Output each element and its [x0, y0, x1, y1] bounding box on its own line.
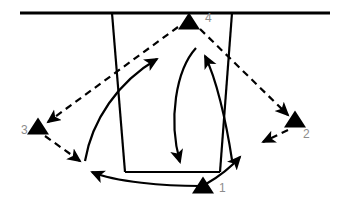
dashed-arrow-3-to-basin-left	[45, 136, 80, 161]
node-labels-group: 1234	[21, 11, 310, 195]
dashed-arrow-4-to-3	[48, 27, 178, 122]
dashed-arrow-4-to-2	[200, 29, 288, 115]
node-label-2: 2	[303, 127, 310, 141]
node-marker-3[interactable]	[27, 118, 49, 135]
solid-curve-node4-down-to-basin-floor	[174, 48, 196, 162]
solid-curve-node1-to-left-flank	[92, 172, 200, 186]
node-label-1: 1	[219, 181, 226, 195]
diagram-canvas: 1234	[0, 0, 338, 207]
dashed-arrows-group	[45, 27, 288, 161]
dashed-arrow-2-to-basin-right	[263, 130, 288, 142]
node-label-3: 3	[21, 123, 28, 137]
node-marker-4[interactable]	[178, 13, 200, 30]
solid-arrows-group	[85, 48, 240, 186]
funnel-outline-group	[112, 13, 232, 172]
diagram-svg: 1234	[0, 0, 338, 207]
nodes-group	[27, 13, 306, 194]
solid-curve-node1-to-right-flank	[206, 157, 240, 184]
node-label-4: 4	[205, 11, 212, 25]
